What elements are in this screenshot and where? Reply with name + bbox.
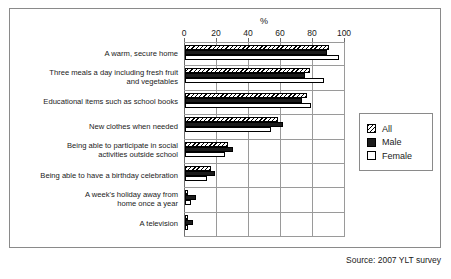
bar-group [185,115,344,138]
bar-row: A week's holiday away fromhome once a ye… [184,188,344,212]
x-axis-unit-label: % [260,16,268,26]
bar-group [185,213,344,236]
bar-group [185,91,344,114]
bar-row: Being able to participate in socialactiv… [184,140,344,164]
legend-item-female[interactable]: Female [367,151,425,161]
category-label: Being able to participate in socialactiv… [10,143,184,160]
tick-mark-100 [344,38,345,42]
legend-swatch-icon [367,124,376,133]
bar-female [185,176,207,181]
bar-row: Educational items such as school books [184,91,344,115]
x-tick-label: 20 [211,28,220,38]
category-label: Educational items such as school books [10,98,184,107]
x-tick-label: 0 [182,28,187,38]
legend-item-all[interactable]: All [367,124,425,134]
bar-group [185,164,344,187]
bar-group [185,43,344,65]
category-label: Three meals a day including fresh fruita… [10,69,184,86]
x-tick-label: 60 [275,28,284,38]
source-note: Source: 2007 YLT survey [346,255,441,265]
category-label: A week's holiday away fromhome once a ye… [10,191,184,208]
bar-female [185,127,271,132]
category-label: Being able to have a birthday celebratio… [10,171,184,180]
x-tick-label: 100 [337,28,351,38]
bar-female [185,225,188,230]
bar-group [185,140,344,163]
bar-row: Three meals a day including fresh fruita… [184,66,344,90]
bar-row: Being able to have a birthday celebratio… [184,164,344,188]
plot-area: % 020406080100 A warm, secure homeThree … [184,42,344,237]
bar-female [185,55,339,60]
bar-row: New clothes when needed [184,115,344,139]
legend-label: All [382,124,392,134]
bar-female [185,78,324,83]
x-tick-label: 40 [243,28,252,38]
bar-female [185,103,311,108]
legend-item-male[interactable]: Male [367,137,425,147]
bar-group [185,188,344,211]
category-label: New clothes when needed [10,123,184,132]
x-tick-label: 80 [307,28,316,38]
category-label: A television [10,220,184,229]
bar-row: A television [184,213,344,237]
gridline-100 [344,42,345,237]
legend-label: Female [382,151,412,161]
bar-group [185,66,344,89]
legend-swatch-icon [367,151,376,160]
bar-row: A warm, secure home [184,42,344,66]
chart-figure: % 020406080100 A warm, secure homeThree … [9,8,441,248]
category-label: A warm, secure home [10,50,184,59]
legend-swatch-icon [367,138,376,147]
legend-label: Male [382,137,402,147]
bar-female [185,152,225,157]
chart-legend: AllMaleFemale [359,113,433,171]
bar-female [185,200,191,205]
